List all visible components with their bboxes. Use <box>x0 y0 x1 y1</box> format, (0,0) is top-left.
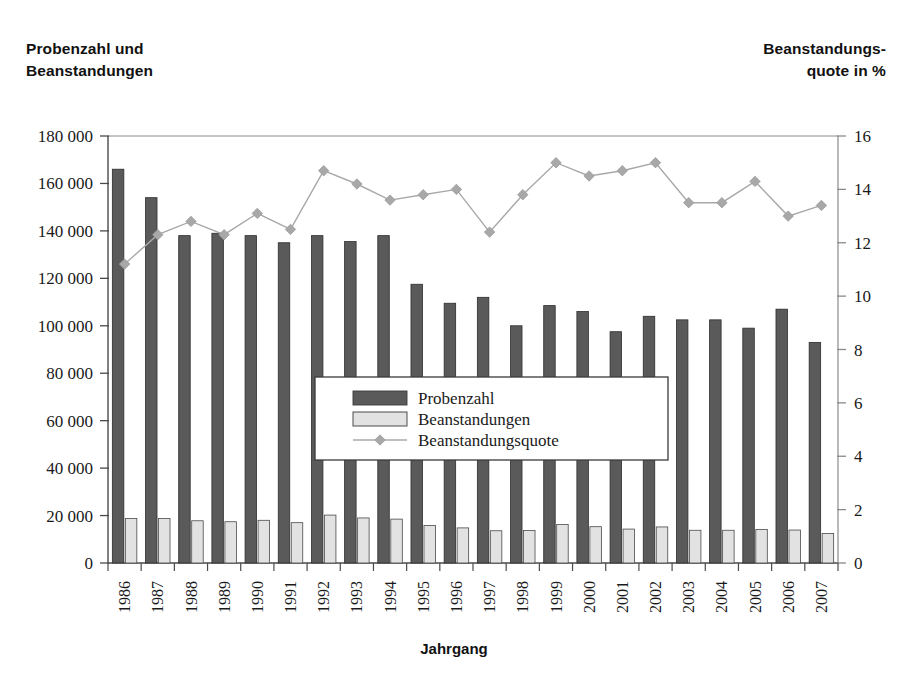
bar-probenzahl <box>743 328 755 563</box>
bar-beanstandungen <box>258 520 270 563</box>
bar-probenzahl <box>809 342 821 563</box>
y-axis-right-tick-label: 6 <box>854 394 863 413</box>
legend-swatch-2 <box>353 412 407 426</box>
line-marker-beanstandungsquote <box>418 190 428 200</box>
y-axis-right-tick-label: 0 <box>854 554 863 573</box>
chart-svg: 020 00040 00060 00080 000100 000120 0001… <box>0 0 908 680</box>
bar-beanstandungen <box>689 530 701 563</box>
x-axis-tick-label: 1996 <box>448 581 465 613</box>
chart-plot-area: 020 00040 00060 00080 000100 000120 0001… <box>0 0 908 680</box>
bar-beanstandungen <box>424 526 436 563</box>
y-axis-left-tick-label: 180 000 <box>38 127 93 146</box>
y-axis-right-tick-label: 4 <box>854 447 863 466</box>
x-axis-tick-label: 2006 <box>780 581 797 613</box>
y-axis-right-tick-label: 14 <box>854 180 872 199</box>
bar-beanstandungen <box>623 529 635 563</box>
y-axis-right-tick-label: 12 <box>854 234 871 253</box>
line-marker-beanstandungsquote <box>319 166 329 176</box>
y-axis-right-tick-label: 2 <box>854 501 863 520</box>
line-marker-beanstandungsquote <box>385 195 395 205</box>
bar-probenzahl <box>212 233 224 563</box>
line-marker-beanstandungsquote <box>717 198 727 208</box>
x-axis-tick-label: 1993 <box>348 581 365 613</box>
y-axis-left-tick-label: 80 000 <box>46 364 93 383</box>
bar-beanstandungen <box>789 530 801 563</box>
bar-beanstandungen <box>756 530 768 563</box>
bar-beanstandungen <box>324 515 336 563</box>
bar-beanstandungen <box>125 518 137 563</box>
x-axis-tick-label: 2007 <box>813 581 830 613</box>
x-axis-tick-label: 1991 <box>282 581 299 613</box>
bar-beanstandungen <box>590 527 602 563</box>
line-marker-beanstandungsquote <box>352 179 362 189</box>
x-axis-tick-label: 1990 <box>249 581 266 613</box>
y-axis-left-tick-label: 0 <box>85 554 94 573</box>
bar-beanstandungen <box>225 522 237 563</box>
chart-page: Probenzahl und Beanstandungen Beanstandu… <box>0 0 908 680</box>
line-marker-beanstandungsquote <box>252 208 262 218</box>
y-axis-left-tick-label: 20 000 <box>46 507 93 526</box>
y-axis-left-tick-label: 40 000 <box>46 459 93 478</box>
bar-beanstandungen <box>723 530 735 563</box>
x-axis-tick-label: 1994 <box>382 581 399 613</box>
x-axis-tick-label: 2002 <box>647 581 664 613</box>
x-axis-tick-label: 1988 <box>183 581 200 613</box>
bar-probenzahl <box>278 243 290 563</box>
line-marker-beanstandungsquote <box>584 171 594 181</box>
legend-label-1: Probenzahl <box>418 389 495 408</box>
x-axis-tick-label: 1986 <box>116 581 133 613</box>
y-axis-left-tick-label: 60 000 <box>46 412 93 431</box>
y-axis-right-tick-label: 10 <box>854 287 871 306</box>
bar-beanstandungen <box>557 525 569 563</box>
bar-beanstandungen <box>524 531 536 563</box>
line-marker-beanstandungsquote <box>617 166 627 176</box>
x-axis-tick-label: 2003 <box>680 581 697 613</box>
bar-probenzahl <box>710 320 722 563</box>
x-axis-tick-label: 1998 <box>514 581 531 613</box>
x-axis-tick-label: 1992 <box>315 581 332 613</box>
line-beanstandungsquote <box>125 163 822 264</box>
bar-beanstandungen <box>192 521 204 563</box>
legend-label-2: Beanstandungen <box>418 410 531 429</box>
x-axis-title: Jahrgang <box>0 640 908 657</box>
x-axis-tick-label: 1989 <box>216 581 233 613</box>
x-axis-tick-label: 2005 <box>747 581 764 613</box>
bar-probenzahl <box>179 236 191 563</box>
x-axis-tick-label: 1995 <box>415 581 432 613</box>
bar-beanstandungen <box>358 518 370 563</box>
bar-beanstandungen <box>159 518 171 563</box>
line-marker-beanstandungsquote <box>285 224 295 234</box>
line-marker-beanstandungsquote <box>816 200 826 210</box>
y-axis-right-tick-label: 16 <box>854 127 871 146</box>
x-axis-tick-label: 2004 <box>713 581 730 613</box>
y-axis-left-tick-label: 120 000 <box>38 269 93 288</box>
bar-probenzahl <box>146 198 158 563</box>
bar-beanstandungen <box>291 523 303 563</box>
legend-label-3: Beanstandungsquote <box>418 431 559 450</box>
bar-probenzahl <box>676 320 688 563</box>
y-axis-left-tick-label: 100 000 <box>38 317 93 336</box>
x-axis-tick-label: 2001 <box>614 581 631 613</box>
bar-beanstandungen <box>656 527 668 563</box>
x-axis-tick-label: 1987 <box>149 581 166 613</box>
y-axis-left-tick-label: 140 000 <box>38 222 93 241</box>
y-axis-right-tick-label: 8 <box>854 341 863 360</box>
y-axis-left-tick-label: 160 000 <box>38 174 93 193</box>
bar-probenzahl <box>112 169 124 563</box>
bar-beanstandungen <box>457 528 469 563</box>
bar-probenzahl <box>776 309 788 563</box>
x-axis-tick-label: 1999 <box>548 581 565 613</box>
bar-beanstandungen <box>490 531 502 563</box>
x-axis-tick-label: 1997 <box>481 581 498 613</box>
line-marker-beanstandungsquote <box>186 216 196 226</box>
bar-beanstandungen <box>822 534 834 563</box>
x-axis-tick-label: 2000 <box>581 581 598 613</box>
bar-probenzahl <box>245 236 257 563</box>
legend-swatch-1 <box>353 391 407 405</box>
bar-beanstandungen <box>391 519 403 563</box>
